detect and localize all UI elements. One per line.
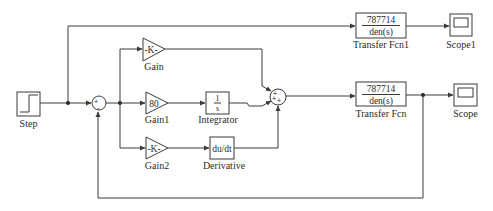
transfer-fcn-denominator: den(s) — [369, 96, 393, 107]
wire-derivative-to-sum2 — [234, 106, 278, 148]
sum2-sign-plus-3: + — [277, 97, 281, 104]
scope1-label: Scope1 — [446, 39, 475, 50]
transfer-fcn-block[interactable]: 787714 den(s) Transfer Fcn — [355, 82, 406, 119]
sum1-block[interactable]: + - — [92, 96, 106, 111]
sum2-block[interactable]: + + + — [270, 89, 286, 105]
integrator-numerator: 1 — [216, 94, 220, 103]
wire-to-gain — [120, 49, 142, 103]
derivative-label: Derivative — [203, 160, 246, 171]
scope-screen-icon — [458, 88, 473, 97]
derivative-block[interactable]: du/dt Derivative — [203, 137, 246, 171]
integrator-block[interactable]: 1 s Integrator — [198, 92, 238, 125]
wire-integrator-to-sum2 — [229, 101, 271, 106]
derivative-value: du/dt — [212, 144, 232, 154]
step-label: Step — [20, 118, 38, 129]
integrator-label: Integrator — [198, 114, 238, 125]
transfer-fcn1-label: Transfer Fcn1 — [353, 39, 409, 50]
scope-block[interactable]: Scope — [453, 84, 478, 119]
gain-block[interactable]: -K- Gain — [143, 38, 165, 72]
transfer-fcn-label: Transfer Fcn — [355, 108, 406, 119]
gain2-value: -K- — [147, 144, 160, 154]
gain-label: Gain — [144, 61, 163, 72]
block-diagram-canvas: Step + - -K- Gain 80 Gain1 -K- Gain2 1 s… — [0, 0, 493, 211]
gain2-block[interactable]: -K- Gain2 — [145, 137, 169, 171]
gain-value: -K- — [144, 45, 157, 55]
gain1-value: 80 — [149, 99, 159, 109]
gain1-label: Gain1 — [145, 114, 169, 125]
scope1-block[interactable]: Scope1 — [446, 14, 475, 50]
integrator-denominator: s — [216, 104, 219, 113]
wire-gain-to-sum2 — [165, 49, 271, 91]
sum2-sign-plus-2: + — [272, 95, 276, 102]
wire-step-to-transfer-fcn1 — [68, 26, 355, 103]
step-block[interactable]: Step — [17, 92, 40, 129]
scope-screen-icon — [454, 18, 468, 27]
transfer-fcn1-block[interactable]: 787714 den(s) Transfer Fcn1 — [353, 13, 409, 50]
wire-to-gain2 — [120, 103, 145, 148]
scope-label: Scope — [453, 108, 478, 119]
transfer-fcn-numerator: 787714 — [367, 84, 396, 94]
transfer-fcn1-denominator: den(s) — [369, 27, 393, 38]
transfer-fcn1-numerator: 787714 — [367, 15, 396, 25]
branch-point — [66, 101, 70, 105]
gain2-label: Gain2 — [145, 160, 169, 171]
gain1-block[interactable]: 80 Gain1 — [145, 92, 169, 125]
